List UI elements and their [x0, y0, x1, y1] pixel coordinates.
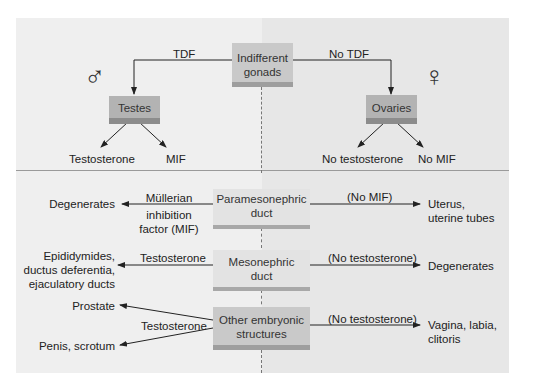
male-symbol-icon: ♂ — [84, 62, 105, 92]
testosterone-condition-2: Testosterone — [140, 251, 206, 265]
box-edge — [213, 345, 310, 350]
indifferent-gonads-line2: gonads — [244, 65, 282, 79]
testosterone-condition-3: Testosterone — [141, 319, 207, 333]
ovaries-box: Ovaries — [366, 95, 417, 124]
arrow-no-tdf — [293, 60, 391, 94]
uterus-result-line1: Uterus, — [428, 197, 465, 211]
mif-condition-line2: inhibition — [134, 208, 204, 222]
penis-scrotum-result: Penis, scrotum — [20, 339, 115, 353]
mif-condition-line3: factor (MIF) — [134, 222, 204, 236]
box-edge — [213, 225, 310, 229]
no-tdf-label: No TDF — [329, 47, 369, 61]
epididymides-line2: ductus deferentia, — [20, 263, 115, 277]
tdf-label: TDF — [173, 47, 195, 61]
no-mif-output: No MIF — [418, 152, 456, 166]
indifferent-gonads-box: Indifferent gonads — [232, 43, 293, 87]
no-testosterone-condition-2: (No testosterone) — [328, 251, 417, 265]
mif-condition-line1: Müllerian — [134, 191, 204, 205]
box-edge — [109, 118, 160, 124]
mesonephric-duct-box: Mesonephric duct — [213, 250, 310, 291]
testes-box: Testes — [109, 96, 160, 124]
other-structures-line1: Other embryonic — [219, 313, 304, 327]
box-edge — [366, 118, 417, 124]
vagina-result-line2: clitoris — [428, 332, 461, 346]
uterus-result-line2: uterine tubes — [428, 211, 495, 225]
vagina-result-line1: Vagina, labia, — [428, 318, 497, 332]
arrow-tdf — [134, 60, 232, 94]
female-symbol-icon: ♀ — [424, 62, 445, 92]
box-edge — [232, 82, 293, 87]
paramesonephric-duct-box: Paramesonephric duct — [213, 189, 310, 229]
mesonephric-line2: duct — [251, 269, 273, 283]
degenerates-right: Degenerates — [428, 259, 494, 273]
box-edge — [213, 287, 310, 291]
testes-label: Testes — [118, 101, 151, 115]
testosterone-output: Testosterone — [69, 152, 135, 166]
degenerates-left: Degenerates — [40, 197, 115, 211]
prostate-result: Prostate — [40, 299, 115, 313]
mif-output: MIF — [166, 152, 186, 166]
other-structures-line2: structures — [236, 327, 287, 341]
epididymides-line3: ejaculatory ducts — [20, 277, 115, 291]
paramesonephric-line1: Paramesonephric — [216, 192, 306, 206]
epididymides-line1: Epididymides, — [20, 249, 115, 263]
mesonephric-line1: Mesonephric — [229, 255, 295, 269]
other-embryonic-structures-box: Other embryonic structures — [213, 307, 310, 350]
no-testosterone-output: No testosterone — [322, 152, 403, 166]
no-mif-condition: (No MIF) — [347, 190, 392, 204]
indifferent-gonads-line1: Indifferent — [237, 51, 288, 65]
paramesonephric-line2: duct — [251, 206, 273, 220]
no-testosterone-condition-3: (No testosterone) — [328, 312, 417, 326]
ovaries-label: Ovaries — [372, 101, 412, 115]
